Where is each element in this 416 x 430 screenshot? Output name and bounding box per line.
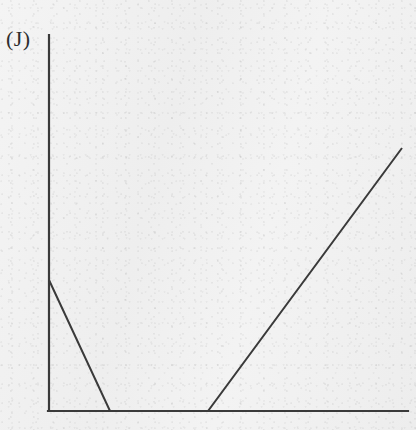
figure-panel: (J) (0, 0, 416, 430)
panel-label: (J) (6, 28, 30, 50)
data-curve (49, 148, 402, 411)
graph-plot (0, 0, 416, 430)
